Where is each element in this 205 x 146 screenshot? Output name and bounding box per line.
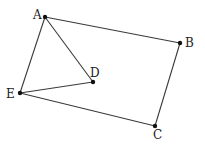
point-b-icon xyxy=(178,41,182,45)
point-label-a: A xyxy=(32,8,42,22)
segment-ab xyxy=(45,17,180,43)
point-label-c: C xyxy=(153,128,162,142)
point-label-b: B xyxy=(185,36,194,50)
point-label-d: D xyxy=(90,66,100,80)
segment-bc xyxy=(155,43,180,126)
geometry-diagram: ABCDE xyxy=(0,0,205,146)
point-label-e: E xyxy=(6,87,15,101)
vertices-group xyxy=(18,15,182,128)
segment-de xyxy=(20,82,93,93)
edges-group xyxy=(20,17,180,126)
segment-ce xyxy=(20,93,155,126)
point-a-icon xyxy=(43,15,47,19)
segment-ea xyxy=(20,17,45,93)
point-d-icon xyxy=(91,80,95,84)
segment-ad xyxy=(45,17,93,82)
point-e-icon xyxy=(18,91,22,95)
